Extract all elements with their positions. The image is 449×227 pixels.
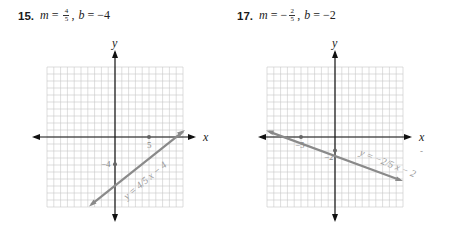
slope-numerator: 2 (290, 8, 294, 15)
intercept-symbol: b (304, 8, 310, 23)
equals-sign: = (87, 8, 94, 23)
x-axis-left-arrow-icon (258, 134, 266, 140)
intercept-value: −2 (323, 8, 336, 23)
x-axis-left-arrow-icon (32, 134, 40, 140)
x-intercept-point (147, 135, 151, 139)
slope-fraction: 4 5 (63, 8, 69, 23)
y-axis-label: y (331, 36, 338, 50)
graph-problem-17: x y - −5 −2 y = −2/5 x − 2 (220, 30, 449, 227)
slope-symbol: m (40, 8, 49, 23)
x-intercept-label: −5 (295, 140, 305, 150)
x-axis-label: x (202, 130, 209, 144)
slope-numerator: 4 (65, 8, 69, 15)
separator: , (297, 8, 300, 23)
x-axis-label: x (418, 130, 425, 144)
slope-denominator: 5 (65, 16, 69, 23)
equation-label: y = 4/5 x − 4 (120, 159, 168, 202)
problem-17-header: 17. m = − 2 5 , b = −2 (237, 8, 336, 23)
axes (32, 50, 196, 222)
x-intercept-point (299, 135, 303, 139)
x-axis-right-arrow-icon (188, 134, 196, 140)
y-intercept-point (333, 149, 337, 153)
slope-fraction: 2 5 (289, 8, 295, 23)
separator: , (71, 8, 74, 23)
slope-sign: − (280, 8, 287, 23)
slope-symbol: m (259, 8, 268, 23)
graph-problem-15: x y −4 5 y = 4/5 x − 4 (0, 30, 225, 227)
problem-15-header: 15. m = 4 5 , b = −4 (18, 8, 110, 23)
y-axis-label: y (111, 36, 118, 50)
y-intercept-label: −4 (101, 159, 111, 169)
y-axis-down-arrow-icon (112, 214, 118, 222)
intercept-symbol: b (78, 8, 84, 23)
intercept-value: −4 (97, 8, 110, 23)
problem-number: 17. (237, 10, 253, 22)
stray-mark: - (420, 146, 423, 156)
equals-sign: = (271, 8, 278, 23)
equals-sign: = (52, 8, 59, 23)
equals-sign: = (313, 8, 320, 23)
y-axis-down-arrow-icon (332, 214, 338, 222)
y-axis-up-arrow-icon (332, 50, 338, 58)
slope-denominator: 5 (290, 16, 294, 23)
y-intercept-label: −2 (324, 152, 334, 162)
problem-number: 15. (18, 10, 34, 22)
x-axis-right-arrow-icon (404, 134, 412, 140)
x-intercept-label: 5 (147, 140, 152, 150)
y-intercept-point (113, 162, 117, 166)
y-axis-up-arrow-icon (112, 50, 118, 58)
